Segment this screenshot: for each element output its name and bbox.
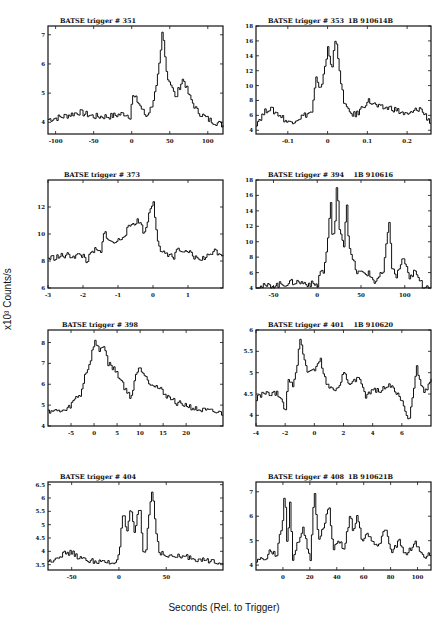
y-tick-label: 12 — [245, 223, 253, 229]
lightcurve-line — [48, 340, 223, 415]
figure-y-axis-label: x10³ Counts/s — [2, 268, 13, 330]
x-tick-label: -2 — [80, 292, 86, 298]
x-tick-label: 5 — [115, 430, 119, 436]
x-tick-label: 100 — [412, 574, 424, 580]
y-tick-label: 12 — [37, 204, 45, 210]
lightcurve-line — [48, 492, 223, 564]
y-tick-label: 16 — [245, 38, 253, 44]
x-tick-label: -50 — [269, 292, 279, 298]
x-tick-label: -0.1 — [282, 138, 294, 144]
x-tick-label: 2 — [342, 430, 346, 436]
y-tick-label: 4 — [249, 562, 253, 568]
y-tick-label: 6 — [41, 61, 45, 67]
panel-title: BATSE trigger # 408 — [268, 473, 344, 481]
x-tick-label: 80 — [387, 574, 395, 580]
chart-plot: 0204060801004567 — [256, 474, 431, 584]
chart-plot: -50510152045678 — [48, 322, 223, 440]
x-tick-label: 15 — [159, 430, 167, 436]
x-tick-label: 0 — [117, 574, 121, 580]
y-tick-label: 4 — [41, 548, 45, 554]
panel-title: BATSE trigger # 394 — [268, 171, 344, 179]
y-tick-label: 6 — [249, 270, 253, 276]
panel-title: BATSE trigger # 404 — [60, 473, 136, 481]
y-tick-label: 10 — [37, 231, 45, 237]
panel-title: BATSE trigger # 373 — [64, 171, 140, 179]
y-tick-label: 7 — [249, 489, 253, 495]
x-tick-label: 0.1 — [363, 138, 373, 144]
y-tick-label: 14 — [245, 208, 253, 214]
y-tick-label: 4 — [249, 412, 253, 418]
plot-frame — [48, 26, 223, 134]
y-tick-label: 4 — [249, 127, 253, 133]
panel-394: BATSE trigger # 394 1B 910619 -500501004… — [256, 172, 431, 302]
y-tick-label: 5 — [249, 538, 253, 544]
y-tick-label: 4.5 — [243, 391, 253, 397]
y-tick-label: 4.5 — [35, 535, 45, 541]
y-tick-label: 6 — [249, 327, 253, 333]
panel-408: BATSE trigger # 408 1B 910621 0204060801… — [256, 474, 431, 584]
x-tick-label: 50 — [166, 138, 174, 144]
y-tick-label: 5 — [249, 370, 253, 376]
y-tick-label: 3.5 — [35, 562, 45, 568]
panel-title: BATSE trigger # 353 — [268, 17, 344, 25]
lightcurve-line — [48, 202, 223, 263]
y-tick-label: 6 — [249, 112, 253, 118]
panel-373: BATSE trigger # 373 1B 910616 -3-2-10168… — [48, 172, 223, 302]
x-tick-label: 60 — [360, 574, 368, 580]
panel-398: BATSE trigger # 398 1B 910620 -505101520… — [48, 322, 223, 440]
y-tick-label: 6 — [41, 495, 45, 501]
y-tick-label: 14 — [245, 53, 253, 59]
y-tick-label: 8 — [249, 97, 253, 103]
x-tick-label: 0 — [281, 574, 285, 580]
x-tick-label: -4 — [253, 430, 259, 436]
x-tick-label: 50 — [162, 574, 170, 580]
chart-plot: -3-2-101681012 — [48, 172, 223, 302]
panel-351: BATSE trigger # 351 1B 910614B -100-5005… — [48, 18, 223, 148]
x-tick-label: -3 — [45, 292, 51, 298]
plot-frame — [256, 180, 431, 288]
y-tick-label: 5 — [41, 90, 45, 96]
y-tick-label: 8 — [41, 258, 45, 264]
y-tick-label: 7 — [41, 360, 45, 366]
lightcurve-line — [48, 32, 223, 127]
y-tick-label: 6 — [249, 513, 253, 519]
y-tick-label: 6 — [41, 381, 45, 387]
x-tick-label: 0.2 — [402, 138, 412, 144]
panel-title: BATSE trigger # 398 — [62, 321, 138, 329]
plot-frame — [48, 180, 223, 288]
chart-plot: -500503.544.555.566.5 — [48, 474, 223, 584]
chart-plot: -500501004681012141618 — [256, 172, 431, 302]
x-tick-label: 100 — [399, 292, 411, 298]
y-tick-label: 8 — [249, 254, 253, 260]
y-tick-label: 4 — [41, 119, 45, 125]
panel-401: BATSE trigger # 401 1B 910620B -4-202464… — [256, 322, 431, 440]
y-tick-label: 4 — [41, 423, 45, 429]
y-tick-label: 18 — [245, 23, 253, 29]
x-tick-label: 0 — [326, 138, 330, 144]
y-tick-label: 10 — [245, 239, 253, 245]
x-tick-label: 20 — [182, 430, 190, 436]
lightcurve-line — [256, 188, 431, 288]
y-tick-label: 7 — [41, 32, 45, 38]
y-tick-label: 5 — [41, 402, 45, 408]
chart-plot: -4-2024644.555.56 — [256, 322, 431, 440]
chart-plot: -100-500501004567 — [48, 18, 223, 148]
y-tick-label: 12 — [245, 68, 253, 74]
x-tick-label: 10 — [136, 430, 144, 436]
panel-title: BATSE trigger # 401 — [268, 321, 344, 329]
lightcurve-line — [256, 41, 431, 126]
lightcurve-line — [256, 339, 431, 419]
x-tick-label: -1 — [115, 292, 121, 298]
x-tick-label: 6 — [400, 430, 404, 436]
x-tick-label: -5 — [68, 430, 74, 436]
y-tick-label: 5.5 — [243, 348, 253, 354]
x-tick-label: 100 — [202, 138, 214, 144]
x-tick-label: 0 — [130, 138, 134, 144]
x-tick-label: -2 — [282, 430, 288, 436]
x-tick-label: 0 — [312, 430, 316, 436]
x-tick-label: 0 — [315, 292, 319, 298]
x-tick-label: -50 — [67, 574, 77, 580]
y-tick-label: 8 — [41, 340, 45, 346]
lightcurve-line — [256, 494, 431, 563]
y-tick-label: 4 — [249, 285, 253, 291]
